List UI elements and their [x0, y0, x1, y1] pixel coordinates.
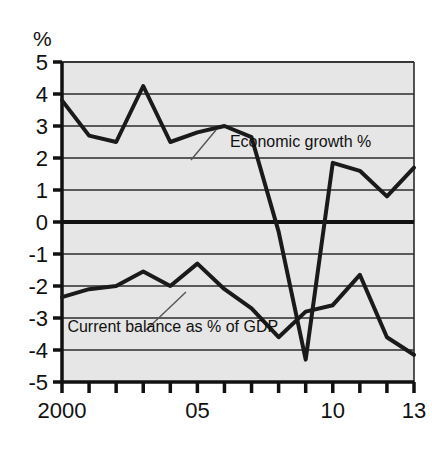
- y-tick-label: 5: [36, 50, 48, 75]
- x-tick-label: 2000: [38, 398, 87, 423]
- x-tick-label: 05: [185, 398, 209, 423]
- y-tick-label: -5: [28, 370, 48, 395]
- chart-canvas: 543210-1-2-3-4-5 2000051013 % Economic g…: [0, 0, 432, 450]
- y-tick-label: -1: [28, 242, 48, 267]
- x-tick-label: 10: [321, 398, 345, 423]
- y-tick-label: 1: [36, 178, 48, 203]
- y-tick-label: 3: [36, 114, 48, 139]
- y-axis-label: %: [33, 27, 52, 50]
- series-label-economic-growth: Economic growth %: [230, 133, 371, 150]
- y-tick-label: -3: [28, 306, 48, 331]
- y-tick-label: 2: [36, 146, 48, 171]
- y-tick-label: 4: [36, 82, 48, 107]
- series-label-current-balance: Current balance as % of GDP: [67, 318, 278, 335]
- y-tick-label: -4: [28, 338, 48, 363]
- y-tick-label: -2: [28, 274, 48, 299]
- x-tick-label: 13: [402, 398, 426, 423]
- economic-indicators-chart: 543210-1-2-3-4-5 2000051013 % Economic g…: [0, 0, 432, 450]
- y-tick-label: 0: [36, 210, 48, 235]
